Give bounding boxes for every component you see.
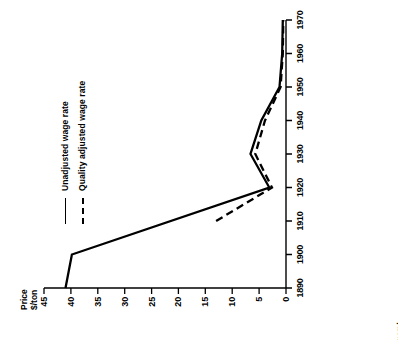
y-tick-label-5: 5 bbox=[255, 297, 264, 302]
legend-label-unadjusted-wage-rate: Unadjusted wage rate bbox=[60, 101, 70, 191]
series-quality-adjusted-wage-rate bbox=[216, 20, 283, 221]
y-tick-label-40: 40 bbox=[66, 297, 75, 307]
y-tick-label-25: 25 bbox=[147, 297, 156, 307]
x-axis-ticks bbox=[286, 20, 292, 288]
x-tick-label-1900: 1900 bbox=[296, 245, 305, 264]
x-tick-label-1950: 1950 bbox=[296, 77, 305, 96]
x-tick-label-1890: 1890 bbox=[296, 278, 305, 297]
y-tick-label-20: 20 bbox=[174, 297, 183, 307]
y-tick-label-0: 0 bbox=[282, 297, 291, 302]
figure-caption: Figure 9-3. Price of copper ore as adjus… bbox=[392, 320, 398, 340]
x-tick-label-1930: 1930 bbox=[296, 144, 305, 163]
y-tick-label-35: 35 bbox=[93, 297, 102, 307]
y-tick-label-10: 10 bbox=[228, 297, 237, 307]
y-tick-label-15: 15 bbox=[201, 297, 210, 307]
x-tick-label-1970: 1970 bbox=[296, 10, 305, 29]
x-tick-label-1920: 1920 bbox=[296, 178, 305, 197]
chart-legend: Unadjusted wage rate Quality adjusted wa… bbox=[58, 81, 92, 224]
chart-plot-area: 1890 1900 1910 1920 1930 1940 1950 1960 … bbox=[34, 10, 316, 310]
y-axis-ticks bbox=[44, 288, 286, 294]
x-tick-label-1940: 1940 bbox=[296, 111, 305, 130]
x-tick-label-1960: 1960 bbox=[296, 44, 305, 63]
figure-caption-text: Price of copper ore as adjusted by two d… bbox=[393, 322, 398, 340]
legend-swatch-dashed-line-icon bbox=[78, 198, 86, 224]
legend-label-quality-adjusted-wage-rate: Quality adjusted wage rate bbox=[77, 81, 87, 191]
y-tick-label-30: 30 bbox=[120, 297, 129, 307]
figure-root: 1890 1900 1910 1920 1930 1940 1950 1960 … bbox=[0, 0, 398, 340]
series-unadjusted-wage-rate bbox=[66, 20, 283, 288]
legend-item-quality-adjusted-wage-rate: Quality adjusted wage rate bbox=[75, 81, 89, 224]
legend-swatch-solid-line-icon bbox=[61, 198, 69, 224]
legend-item-unadjusted-wage-rate: Unadjusted wage rate bbox=[58, 81, 72, 224]
x-tick-label-1910: 1910 bbox=[296, 211, 305, 230]
y-tick-label-45: 45 bbox=[40, 297, 49, 307]
y-axis-title-line2: $/ton bbox=[30, 290, 40, 310]
